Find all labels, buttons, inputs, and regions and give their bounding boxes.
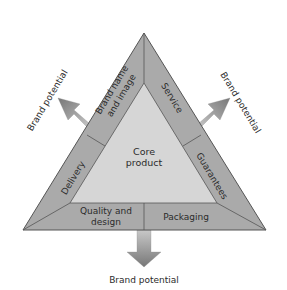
- segment-quality-2: design: [91, 217, 121, 227]
- core-product-label-2: product: [126, 157, 163, 168]
- segment-quality: Quality and: [80, 206, 132, 216]
- segment-packaging: Packaging: [163, 212, 209, 222]
- brand-potential-bottom: Brand potential: [109, 275, 179, 285]
- arrow-down-icon: [127, 230, 161, 267]
- arrow-left-icon: [58, 98, 90, 128]
- core-product-label: Core: [133, 146, 155, 157]
- product-levels-diagram: Core product Brand name and image Servic…: [0, 0, 287, 290]
- arrow-right-icon: [198, 98, 230, 128]
